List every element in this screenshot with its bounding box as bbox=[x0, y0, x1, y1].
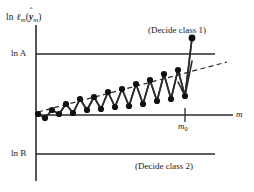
sprt-plot bbox=[0, 0, 254, 192]
m0-subscript: 0 bbox=[185, 125, 188, 132]
decide-class-2-annotation: (Decide class 2) bbox=[135, 162, 193, 171]
x-axis-label: m bbox=[236, 110, 243, 119]
m0-tick-label: m0 bbox=[178, 122, 188, 132]
decide-class-1-annotation: (Decide class 1) bbox=[148, 26, 206, 35]
upper-threshold-label: ln A bbox=[11, 49, 26, 58]
figure-caption bbox=[4, 186, 250, 192]
hat-accent-icon: ˆ bbox=[30, 8, 33, 16]
data-point-markers bbox=[35, 35, 196, 122]
y-axis-title-ln: ln bbox=[6, 12, 14, 22]
figure-container: lnℓm(ˆym) ln A ln B (Decide class 1) (De… bbox=[0, 0, 254, 192]
y-axis-title-y-hat: ˆy bbox=[29, 13, 33, 23]
y-axis-title-close-paren: ) bbox=[38, 12, 41, 22]
y-axis-title: lnℓm(ˆym) bbox=[6, 13, 42, 24]
lower-threshold-label: ln B bbox=[11, 149, 26, 158]
